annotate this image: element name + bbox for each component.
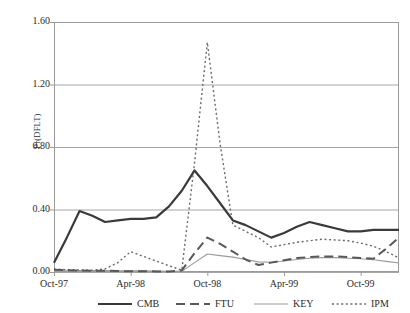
legend-label: FTU <box>215 298 234 309</box>
legend-swatch-ipm-icon <box>332 299 366 309</box>
y-axis-tick-label: 0.00 <box>6 266 50 276</box>
y-axis-tick-label: 1.20 <box>6 79 50 89</box>
x-axis-tick-label: Oct-97 <box>19 278 89 289</box>
legend-label: KEY <box>293 298 314 309</box>
x-axis-tick-label: Apr-98 <box>96 278 166 289</box>
x-axis-tick-label: Oct-98 <box>172 278 242 289</box>
plot-area <box>0 0 410 313</box>
x-axis-tick-label: Oct-99 <box>326 278 396 289</box>
legend-swatch-ftu-icon <box>176 299 210 309</box>
legend-swatch-cmb-icon <box>98 299 132 309</box>
y-axis-tick-label: 0.80 <box>6 141 50 151</box>
legend-label: IPM <box>371 298 389 309</box>
legend-item-ipm[interactable]: IPM <box>332 294 389 313</box>
y-axis-tick-label: 0.40 <box>6 204 50 214</box>
chart-container: 0.000.400.801.201.60 Pr(DFLT) CMBFTUKEYI… <box>0 0 410 313</box>
legend-item-cmb[interactable]: CMB <box>98 294 159 313</box>
chart-legend: CMBFTUKEYIPM <box>0 294 410 313</box>
y-axis-title: Pr(DFLT) <box>32 96 42 166</box>
legend-item-ftu[interactable]: FTU <box>176 294 234 313</box>
y-axis-tick-label: 1.60 <box>6 16 50 26</box>
legend-swatch-key-icon <box>254 299 288 309</box>
legend-label: CMB <box>137 298 159 309</box>
y-axis-ticks: 0.000.400.801.201.60 <box>0 0 50 313</box>
legend-item-key[interactable]: KEY <box>254 294 314 313</box>
x-axis-tick-label: Apr-99 <box>249 278 319 289</box>
